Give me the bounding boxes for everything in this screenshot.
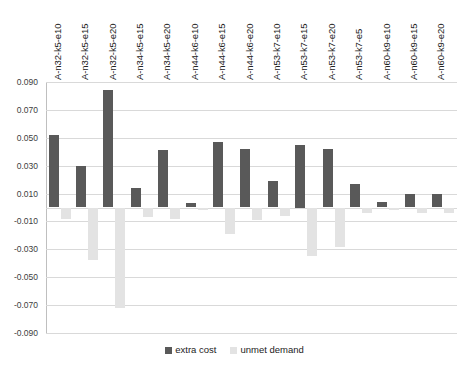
bar-extra-cost [323, 149, 333, 208]
bar-extra-cost [213, 142, 223, 208]
x-axis-category-label: A-n60-k9-e15 [407, 0, 421, 80]
bar-extra-cost [432, 194, 442, 208]
x-axis-category-label: A-n53-k7-e10 [270, 0, 284, 80]
y-axis-tick-label: -0.050 [0, 272, 38, 282]
bar-unmet-demand [170, 208, 180, 219]
bar-group [430, 82, 457, 333]
x-axis-category-label: A-n53-k7-e15 [297, 0, 311, 80]
bar-group [347, 82, 374, 333]
bar-group [293, 82, 320, 333]
legend-item: unmet demand [230, 344, 303, 355]
y-axis-tick-label: 0.010 [0, 189, 38, 199]
y-axis-tick-label: 0.070 [0, 105, 38, 115]
bar-extra-cost [377, 202, 387, 208]
bar-unmet-demand [225, 208, 235, 234]
bar-unmet-demand [198, 208, 208, 211]
bar-group [265, 82, 292, 333]
x-axis-category-label: A-n60-k9-e10 [380, 0, 394, 80]
bar-unmet-demand [362, 208, 372, 214]
bar-unmet-demand [335, 208, 345, 247]
bar-group [128, 82, 155, 333]
bar-group [402, 82, 429, 333]
x-axis-category-label: A-n32-k5-e15 [78, 0, 92, 80]
bar-unmet-demand [143, 208, 153, 218]
x-axis-category-label: A-n53-k7-e5 [352, 0, 366, 80]
legend-swatch [230, 347, 237, 354]
bar-unmet-demand [88, 208, 98, 261]
bar-group [101, 82, 128, 333]
bar-unmet-demand [307, 208, 317, 257]
x-axis-category-label: A-n44-k6-e10 [188, 0, 202, 80]
bar-group [46, 82, 73, 333]
x-axis-category-label: A-n44-k6-e15 [215, 0, 229, 80]
y-axis-tick-label: -0.070 [0, 300, 38, 310]
bar-group [320, 82, 347, 333]
y-axis-tick-label: -0.030 [0, 244, 38, 254]
x-axis-category-label: A-n53-k7-e20 [325, 0, 339, 80]
bar-extra-cost [240, 149, 250, 208]
bar-extra-cost [158, 150, 168, 207]
x-axis-category-label: A-n44-k6-e20 [243, 0, 257, 80]
x-axis-category-label: A-n32-k5-e10 [51, 0, 65, 80]
gridline [46, 333, 457, 334]
bar-extra-cost [131, 188, 141, 208]
bar-extra-cost [103, 90, 113, 207]
bar-unmet-demand [280, 208, 290, 216]
bar-unmet-demand [444, 208, 454, 214]
y-axis-tick-label: 0.030 [0, 161, 38, 171]
bar-extra-cost [405, 194, 415, 208]
bar-unmet-demand [61, 208, 71, 219]
x-axis-category-label: A-n34-k5-e20 [160, 0, 174, 80]
bar-unmet-demand [417, 208, 427, 214]
bar-extra-cost [350, 184, 360, 208]
bar-unmet-demand [389, 208, 399, 211]
bar-group [210, 82, 237, 333]
x-axis-category-labels: A-n32-k5-e10A-n32-k5-e15A-n32-k5-e20A-n3… [0, 0, 469, 82]
legend-label: unmet demand [240, 344, 303, 355]
legend-item: extra cost [165, 344, 216, 355]
bar-chart: A-n32-k5-e10A-n32-k5-e15A-n32-k5-e20A-n3… [0, 0, 469, 366]
bar-unmet-demand [252, 208, 262, 221]
bar-group [238, 82, 265, 333]
y-axis-tick-label: 0.090 [0, 77, 38, 87]
bar-extra-cost [49, 135, 59, 208]
chart-legend: extra costunmet demand [0, 344, 469, 355]
bar-extra-cost [268, 181, 278, 207]
bar-group [156, 82, 183, 333]
bar-group [73, 82, 100, 333]
bar-group [183, 82, 210, 333]
legend-swatch [165, 347, 172, 354]
x-axis-category-label: A-n34-k5-e15 [133, 0, 147, 80]
bar-extra-cost [76, 166, 86, 208]
bar-group [375, 82, 402, 333]
legend-label: extra cost [175, 344, 216, 355]
x-axis-category-label: A-n32-k5-e20 [106, 0, 120, 80]
y-axis-tick-label: -0.010 [0, 216, 38, 226]
bar-extra-cost [186, 203, 196, 207]
plot-area: 0.0900.0700.0500.0300.010-0.010-0.030-0.… [46, 82, 457, 333]
y-axis-tick-label: 0.050 [0, 133, 38, 143]
x-axis-category-label: A-n60-k9-e20 [434, 0, 448, 80]
y-axis-tick-label: -0.090 [0, 328, 38, 338]
bar-extra-cost [295, 145, 305, 208]
bar-unmet-demand [115, 208, 125, 308]
